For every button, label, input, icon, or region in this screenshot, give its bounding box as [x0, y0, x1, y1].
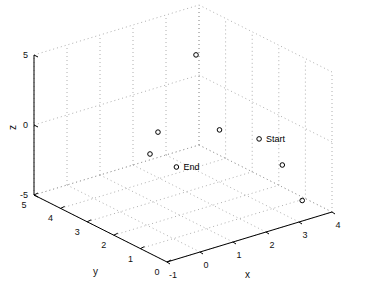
data-point — [194, 53, 199, 58]
z-tick-label: -5 — [20, 190, 28, 200]
y-tick-label: 0 — [154, 267, 159, 277]
z-tick-label: 0 — [23, 120, 28, 130]
data-point — [174, 165, 179, 170]
x-tick-label: 4 — [335, 220, 340, 230]
y-tick-label: 4 — [48, 213, 53, 223]
y-tick-label: 5 — [21, 200, 26, 210]
floor-grid-line-y — [140, 199, 305, 249]
floor-grid-line-x — [199, 145, 332, 212]
z-tick — [34, 195, 38, 197]
x-axis-label: x — [245, 269, 250, 280]
side-wall-grid-line-z — [199, 5, 332, 72]
y-tick — [34, 193, 38, 195]
data-point — [217, 128, 222, 133]
z-tick-label: 5 — [23, 50, 28, 60]
y-tick — [87, 220, 91, 222]
data-point — [257, 137, 262, 142]
z-tick — [34, 55, 38, 57]
floor-grid-line-y — [34, 145, 199, 195]
x-tick — [299, 222, 302, 224]
y-tick-label: 2 — [101, 240, 106, 250]
z-tick — [34, 125, 38, 127]
x-tick — [233, 242, 236, 244]
grid — [34, 5, 332, 262]
data-point — [156, 130, 161, 135]
data-point — [148, 152, 153, 157]
z-axis-label: z — [7, 125, 18, 130]
floor-grid-line-y — [114, 185, 279, 235]
floor-grid-line-x — [100, 175, 233, 242]
back-wall-grid-line-z — [34, 75, 199, 125]
y-tick — [114, 233, 118, 235]
y-tick-label: 3 — [75, 227, 80, 237]
point-annotation-start: Start — [266, 134, 286, 144]
back-wall-grid-line-z — [34, 145, 199, 195]
x-tick-label: -1 — [169, 270, 177, 280]
data-point — [280, 163, 285, 168]
x-tick-label: 1 — [236, 250, 241, 260]
x-tick — [332, 212, 335, 214]
y-axis-label: y — [93, 266, 98, 277]
floor-grid-line-y — [61, 158, 226, 208]
x-tick — [200, 252, 203, 254]
y-axis-line — [34, 195, 167, 262]
data-points: StartEnd — [148, 53, 305, 203]
side-wall-grid-line-z — [199, 145, 332, 212]
floor-grid-line-y — [87, 172, 252, 222]
floor-grid-line-x — [67, 185, 200, 252]
x-tick — [266, 232, 269, 234]
y-tick — [61, 206, 65, 208]
tick-labels: -101234012345-505 — [20, 50, 341, 280]
y-tick — [140, 247, 144, 249]
scatter3d-chart: -101234012345-505 x y z StartEnd — [0, 0, 365, 285]
data-point — [300, 198, 305, 203]
y-tick-label: 1 — [128, 254, 133, 264]
floor-grid-line-x — [133, 165, 266, 232]
x-tick-label: 3 — [302, 230, 307, 240]
x-tick-label: 0 — [203, 260, 208, 270]
point-annotation-end: End — [183, 162, 199, 172]
back-wall-grid-line-z — [34, 5, 199, 55]
x-tick-label: 2 — [269, 240, 274, 250]
